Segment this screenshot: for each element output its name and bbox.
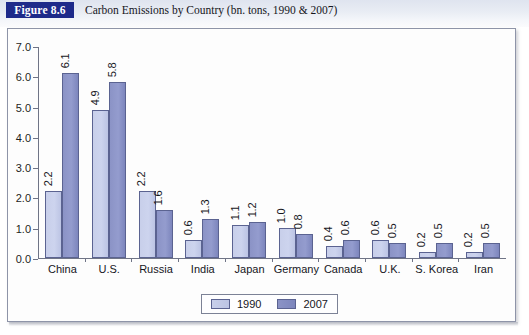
bar[interactable]: 0.8	[296, 234, 313, 258]
bar[interactable]: 0.5	[436, 243, 453, 258]
bar-value-label: 0.8	[292, 214, 304, 229]
bar-groups: 2.26.14.95.82.21.60.61.31.11.21.00.80.40…	[39, 47, 506, 258]
plot-area: 7.06.05.04.03.02.01.00.0 2.26.14.95.82.2…	[38, 47, 506, 259]
bar[interactable]: 0.6	[372, 240, 389, 258]
legend-label-1990: 1990	[237, 298, 261, 310]
bar[interactable]: 0.6	[343, 240, 360, 258]
y-axis-tick-label: 2.0	[16, 192, 31, 204]
bar[interactable]: 0.4	[326, 246, 343, 258]
chart-panel: 7.06.05.04.03.02.01.00.0 2.26.14.95.82.2…	[7, 28, 516, 322]
y-axis-tick	[33, 138, 38, 139]
legend-swatch-2007-icon	[277, 299, 296, 309]
bar-group: 2.26.1	[39, 47, 86, 258]
bar-value-label: 1.6	[152, 190, 164, 205]
bar[interactable]: 0.2	[419, 252, 436, 258]
y-axis-tick-label: 1.0	[16, 223, 31, 235]
bar[interactable]: 4.9	[92, 110, 109, 258]
y-axis-tick-label: 7.0	[16, 41, 31, 53]
y-axis-tick	[33, 229, 38, 230]
x-axis-tick	[318, 258, 319, 262]
bar[interactable]: 0.2	[466, 252, 483, 258]
bar-group: 1.11.2	[226, 47, 273, 258]
y-axis-tick	[33, 168, 38, 169]
bar-value-label: 5.8	[106, 63, 118, 78]
bar[interactable]: 1.1	[232, 225, 249, 258]
y-axis-tick-label: 0.0	[16, 253, 31, 265]
figure-title: Carbon Emissions by Country (bn. tons, 1…	[85, 2, 337, 18]
bar-value-label: 0.6	[369, 220, 381, 235]
x-axis-category-label: Russia	[133, 263, 180, 275]
y-axis-tick	[33, 259, 38, 260]
x-axis-category-label: India	[179, 263, 226, 275]
bar-value-label: 2.2	[42, 172, 54, 187]
legend-label-2007: 2007	[303, 298, 327, 310]
chart-legend: 1990 2007	[201, 294, 338, 314]
figure-number-badge: Figure 8.6	[6, 2, 74, 18]
bar[interactable]: 1.6	[156, 210, 173, 258]
x-axis-category-labels: ChinaU.S.RussiaIndiaJapanGermanyCanadaU.…	[39, 263, 507, 275]
bar-value-label: 0.2	[415, 233, 427, 248]
bar-group: 2.21.6	[132, 47, 179, 258]
x-axis-category-label: Canada	[320, 263, 367, 275]
bar-value-label: 0.6	[339, 220, 351, 235]
legend-item-2007: 2007	[277, 298, 327, 310]
bar-value-label: 0.2	[462, 233, 474, 248]
y-axis-tick-label: 5.0	[16, 102, 31, 114]
legend-swatch-1990-icon	[211, 299, 230, 309]
bar-value-label: 0.6	[182, 220, 194, 235]
x-axis-category-label: China	[39, 263, 86, 275]
bar-group: 0.61.3	[179, 47, 226, 258]
x-axis-category-label: S. Korea	[413, 263, 460, 275]
bar-value-label: 1.0	[275, 208, 287, 223]
bar[interactable]: 1.3	[202, 219, 219, 258]
y-axis-tick-label: 4.0	[16, 132, 31, 144]
y-axis-tick-label: 3.0	[16, 162, 31, 174]
x-axis-category-label: Japan	[226, 263, 273, 275]
bar-group: 4.95.8	[86, 47, 133, 258]
bar[interactable]: 0.6	[185, 240, 202, 258]
y-axis-tick	[33, 47, 38, 48]
y-axis-tick	[33, 77, 38, 78]
bar-value-label: 2.2	[135, 172, 147, 187]
bar[interactable]: 2.2	[45, 191, 62, 258]
x-axis-tick	[85, 258, 86, 262]
bar[interactable]: 1.2	[249, 222, 266, 258]
x-axis-category-label: U.K.	[367, 263, 414, 275]
x-axis-tick	[131, 258, 132, 262]
panel-drop-shadow	[9, 322, 518, 326]
x-axis-tick	[272, 258, 273, 262]
x-axis-tick	[365, 258, 366, 262]
bar-value-label: 0.5	[386, 224, 398, 239]
x-axis-category-label: Iran	[460, 263, 507, 275]
bar-group: 0.20.5	[459, 47, 506, 258]
x-axis-tick	[412, 258, 413, 262]
bar-group: 0.20.5	[413, 47, 460, 258]
bar-value-label: 0.5	[479, 224, 491, 239]
y-axis-tick	[33, 198, 38, 199]
figure-header: Figure 8.6 Carbon Emissions by Country (…	[0, 0, 529, 27]
bar[interactable]: 6.1	[62, 73, 79, 258]
bar[interactable]: 5.8	[109, 82, 126, 258]
x-axis-tick	[458, 258, 459, 262]
bar-value-label: 4.9	[89, 90, 101, 105]
bar[interactable]: 1.0	[279, 228, 296, 258]
x-axis-tick	[225, 258, 226, 262]
bar-group: 0.40.6	[319, 47, 366, 258]
bar-value-label: 1.2	[246, 202, 258, 217]
bar-value-label: 1.3	[199, 199, 211, 214]
y-axis-tick	[33, 108, 38, 109]
legend-item-1990: 1990	[211, 298, 261, 310]
x-axis-tick	[178, 258, 179, 262]
bar[interactable]: 0.5	[389, 243, 406, 258]
x-axis-category-label: U.S.	[86, 263, 133, 275]
y-axis-tick-label: 6.0	[16, 71, 31, 83]
bar-value-label: 0.4	[322, 227, 334, 242]
bar-group: 1.00.8	[273, 47, 320, 258]
x-axis-category-label: Germany	[273, 263, 320, 275]
bar-value-label: 0.5	[432, 224, 444, 239]
bar-value-label: 6.1	[59, 54, 71, 69]
bar[interactable]: 0.5	[483, 243, 500, 258]
bar-value-label: 1.1	[229, 205, 241, 220]
bar-group: 0.60.5	[366, 47, 413, 258]
